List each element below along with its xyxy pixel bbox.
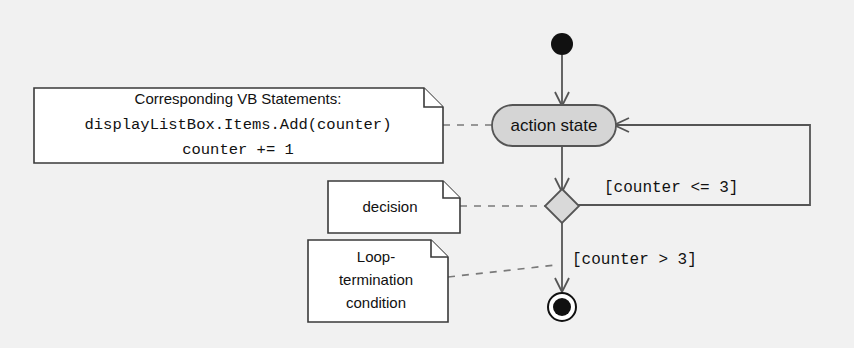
note-loop-line-3: condition: [346, 294, 406, 311]
edge-decision-to-final: [555, 220, 569, 292]
note-loop-line-2: termination: [339, 271, 413, 288]
final-state: [548, 293, 576, 321]
note-loop-termination[interactable]: Loop- termination condition: [308, 240, 448, 322]
note-vb-line-3: counter += 1: [182, 141, 294, 159]
edge-action-to-decision: [555, 146, 569, 192]
action-state[interactable]: action state: [492, 105, 616, 146]
guard-label-loop-back: [counter <= 3]: [604, 179, 738, 197]
action-state-label: action state: [511, 116, 598, 135]
connector-loop-termination-note: [448, 265, 556, 277]
initial-state: [551, 33, 573, 55]
diagram-svg: action state Corresponding VB Statements…: [0, 0, 854, 348]
note-loop-line-1: Loop-: [357, 248, 395, 265]
edge-initial-to-action: [555, 55, 569, 106]
note-vb-line-2: displayListBox.Items.Add(counter): [85, 116, 392, 134]
note-decision[interactable]: decision: [328, 181, 460, 233]
note-decision-line-1: decision: [362, 198, 417, 215]
note-vb-line-1: Corresponding VB Statements:: [135, 90, 342, 107]
note-vb-statements[interactable]: Corresponding VB Statements: displayList…: [34, 88, 443, 163]
decision-node[interactable]: [545, 189, 579, 223]
guard-label-exit: [counter > 3]: [572, 251, 697, 269]
activity-diagram-canvas: action state Corresponding VB Statements…: [0, 0, 854, 348]
